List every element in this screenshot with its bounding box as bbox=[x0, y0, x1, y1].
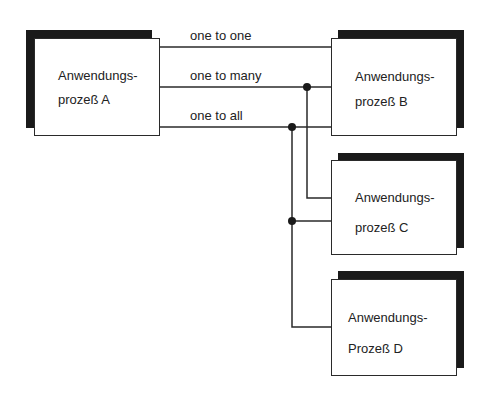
label-one-to-all: one to all bbox=[190, 109, 243, 122]
label-one-to-many: one to many bbox=[190, 69, 262, 82]
junction-dot-all bbox=[288, 123, 296, 131]
junction-dot-many bbox=[303, 83, 311, 91]
junction-dot-all-c bbox=[288, 217, 296, 225]
edge-one-to-many-branch-c bbox=[307, 87, 331, 198]
connection-wires bbox=[0, 0, 490, 398]
edge-one-to-all-branch bbox=[292, 127, 331, 327]
label-one-to-one: one to one bbox=[190, 29, 251, 42]
diagram-canvas: Anwendungs- prozeß A Anwendungs- prozeß … bbox=[0, 0, 490, 398]
